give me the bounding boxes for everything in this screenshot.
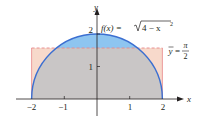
x-tick-label: −1	[58, 102, 68, 112]
x-tick-label: −2	[27, 102, 37, 112]
curve-label-exp: 2	[170, 21, 173, 27]
x-axis-label: x	[186, 94, 191, 104]
x-axis-arrow-icon	[177, 97, 184, 102]
y-tick-label: 1	[89, 62, 94, 72]
x-tick-label: 2	[161, 102, 166, 112]
mean-label-y: y	[168, 46, 173, 56]
curve-label-f: f(x) =	[101, 23, 122, 33]
y-tick-label: 2	[89, 25, 94, 35]
semicircle-mean-value-chart: −2 −1 1 2 1 2 x y f(x) = 4 − x 2 y = π 2	[0, 0, 211, 124]
x-tick-label: 1	[128, 102, 133, 112]
mean-label-num: π	[183, 41, 188, 50]
curve-label: f(x) = 4 − x 2	[101, 21, 173, 33]
mean-label-den: 2	[184, 52, 188, 61]
mean-label: y = π 2	[168, 41, 190, 61]
mean-label-eq: =	[175, 46, 180, 56]
y-axis-label: y	[93, 2, 98, 12]
curve-label-arg: 4 − x	[142, 23, 161, 33]
